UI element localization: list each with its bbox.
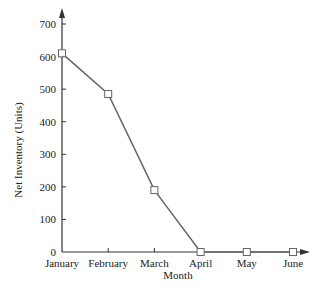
y-tick-label: 500 <box>40 83 57 95</box>
y-tick-label: 600 <box>40 51 57 63</box>
x-axis-ticks: JanuaryFebruaryMarchAprilMayJune <box>45 248 303 269</box>
square-marker-icon <box>290 249 297 256</box>
x-tick-label: March <box>140 257 169 269</box>
square-marker-icon <box>243 249 250 256</box>
x-tick-label: May <box>237 257 258 269</box>
y-tick-label: 400 <box>40 116 57 128</box>
data-series <box>59 50 297 256</box>
axes <box>59 8 310 255</box>
x-tick-label: June <box>283 257 303 269</box>
x-axis-label: Month <box>163 269 193 281</box>
x-tick-label: January <box>45 257 80 269</box>
y-tick-label: 300 <box>40 148 57 160</box>
series-line <box>62 53 293 252</box>
square-marker-icon <box>197 249 204 256</box>
square-marker-icon <box>59 50 66 57</box>
y-axis-arrow-icon <box>59 8 65 18</box>
x-axis-arrow-icon <box>300 249 310 255</box>
square-marker-icon <box>105 91 112 98</box>
line-chart: 0100200300400500600700 JanuaryFebruaryMa… <box>0 0 323 299</box>
y-tick-label: 700 <box>40 18 57 30</box>
y-tick-label: 200 <box>40 181 57 193</box>
x-tick-label: February <box>88 257 128 269</box>
y-axis-label: Net Inventory (Units) <box>12 102 25 198</box>
y-tick-label: 100 <box>40 213 57 225</box>
square-marker-icon <box>151 187 158 194</box>
x-tick-label: April <box>189 257 212 269</box>
